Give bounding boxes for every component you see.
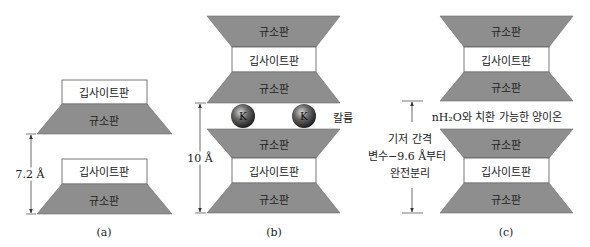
silica-label: 규소판 xyxy=(89,112,119,128)
potassium-label: 칼륨 xyxy=(333,109,353,125)
basal-spacing-label-line1: 기저 간격 xyxy=(388,130,432,146)
gibbsite-label: 깁사이트판 xyxy=(79,84,129,100)
silica-label: 규소판 xyxy=(259,191,289,207)
spacing-label: 7.2 Å xyxy=(15,168,46,181)
silica-label: 규소판 xyxy=(491,191,521,207)
silica-label: 규소판 xyxy=(89,192,119,208)
panel-b xyxy=(195,16,340,213)
silica-label: 규소판 xyxy=(259,136,289,152)
silica-label: 규소판 xyxy=(491,79,521,95)
silica-label: 규소판 xyxy=(259,23,289,39)
gibbsite-label: 깁사이트판 xyxy=(481,52,531,68)
spacing-label: 10 Å xyxy=(186,152,213,165)
interlayer-label: nH₂O와 치환 가능한 양이온 xyxy=(432,108,563,124)
silica-label: 규소판 xyxy=(259,80,289,96)
basal-spacing-label-line2: 변수−9.6 Å부터 xyxy=(368,147,446,163)
panel-caption: (b) xyxy=(266,226,282,239)
panel-caption: (a) xyxy=(96,226,111,239)
basal-spacing-label-line3: 완전분리 xyxy=(390,164,430,180)
panel-caption: (c) xyxy=(499,226,514,239)
silica-label: 규소판 xyxy=(491,136,521,152)
silica-label: 규소판 xyxy=(491,23,521,39)
gibbsite-label: 깁사이트판 xyxy=(481,163,531,179)
ion-symbol: K xyxy=(239,110,247,122)
ion-symbol: K xyxy=(300,110,308,122)
gibbsite-label: 깁사이트판 xyxy=(79,163,129,179)
gibbsite-label: 깁사이트판 xyxy=(249,163,299,179)
gibbsite-label: 깁사이트판 xyxy=(249,52,299,68)
